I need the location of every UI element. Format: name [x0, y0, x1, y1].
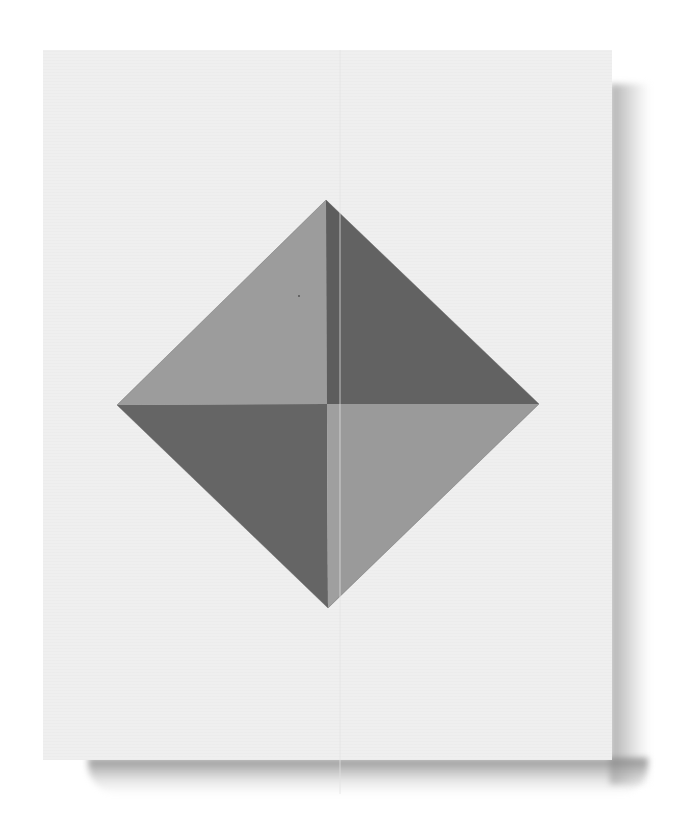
- diamond-inner-strip: [326, 200, 340, 404]
- diamond-figure: [0, 0, 699, 829]
- diamond-inner-strip-lower: [327, 404, 340, 608]
- speck-mark: [298, 295, 300, 297]
